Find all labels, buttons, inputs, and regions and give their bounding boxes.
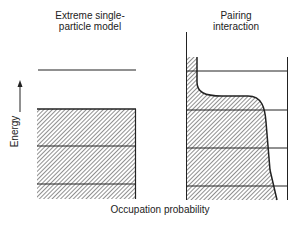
right-panel (186, 32, 288, 200)
filled-levels-block (37, 109, 135, 199)
diagram-canvas (0, 0, 302, 226)
occupation-curve-fill (186, 57, 277, 200)
energy-arrow-icon (18, 80, 23, 112)
left-panel (37, 70, 136, 199)
